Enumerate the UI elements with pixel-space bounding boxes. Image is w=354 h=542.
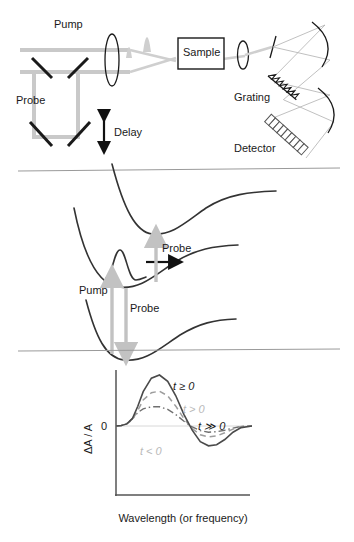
pulse-pump [143, 37, 151, 52]
annotation-t-ge-zero: t ≥ 0 [173, 380, 195, 392]
spectrum-svg: ΔA / A 0 t ≥ 0 t > 0 t ≫ 0 t < 0 Wavelen… [0, 352, 354, 542]
chart-y-tick-zero: 0 [101, 420, 107, 432]
ray-to-slit [245, 47, 272, 55]
pes-probe-lower-label: Probe [130, 302, 159, 314]
concave-mirror-upper [312, 22, 328, 67]
probe-converging-ray [130, 58, 176, 72]
wavepacket [106, 250, 146, 280]
spectrum-chart-panel: ΔA / A 0 t ≥ 0 t > 0 t ≫ 0 t < 0 Wavelen… [0, 352, 354, 542]
annotation-t-much-greater: t ≫ 0 [198, 420, 226, 432]
annotation-t-less-zero: t < 0 [140, 445, 163, 457]
ray-slit-to-mirror1-a [273, 25, 325, 47]
optical-setup-svg: Pump Probe Delay Sample Grating Detector [0, 0, 354, 172]
panel-separator-2 [18, 349, 340, 351]
potential-energy-panel: Pump Probe Probe [0, 172, 354, 352]
pump-label: Pump [54, 18, 83, 30]
grating-icon [268, 71, 300, 99]
delay-label: Delay [114, 126, 143, 138]
pes-pump-label: Pump [79, 284, 108, 296]
optical-setup-panel: Pump Probe Delay Sample Grating Detector [0, 0, 354, 172]
concave-mirror-lower [318, 88, 334, 133]
ray-mirror1-to-grating-a [273, 25, 325, 78]
annotation-t-greater-zero: t > 0 [183, 403, 206, 415]
post-sample-ray [223, 56, 245, 59]
sample-label: Sample [183, 46, 220, 58]
detector-label: Detector [234, 142, 276, 154]
pes-svg: Pump Probe Probe [0, 172, 354, 352]
focusing-lens-icon [105, 34, 119, 86]
panel-separator-1 [18, 168, 340, 171]
grating-label: Grating [234, 91, 270, 103]
pes-curve-higher [112, 164, 276, 234]
pes-probe-upper-label: Probe [162, 242, 191, 254]
probe-label: Probe [16, 94, 45, 106]
chart-x-axis-label: Wavelength (or frequency) [118, 512, 247, 524]
ray-mirror2-to-detector-b [306, 122, 334, 158]
figure-root: Pump Probe Delay Sample Grating Detector [0, 0, 354, 542]
chart-y-axis-label: ΔA / A [82, 423, 94, 454]
